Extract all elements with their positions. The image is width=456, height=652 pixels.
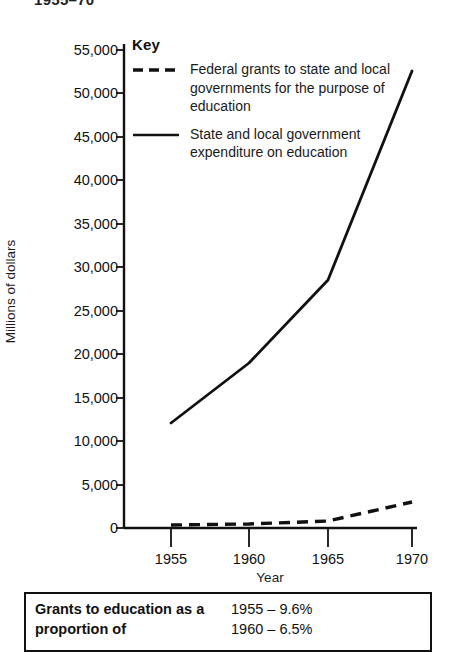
y-tick-label: 15,000 bbox=[32, 391, 118, 406]
y-tick-label: 45,000 bbox=[32, 130, 118, 145]
x-tick-label: 1970 bbox=[377, 551, 447, 567]
y-tick-label: 40,000 bbox=[32, 173, 118, 188]
x-axis-ticks bbox=[171, 528, 412, 547]
y-tick-label: 50,000 bbox=[32, 86, 118, 101]
footer-table-row: 1960 – 6.5% bbox=[231, 620, 312, 640]
legend-entry-state-local-expenditure: State and local government expenditure o… bbox=[132, 125, 432, 162]
y-axis-title: Millions of dollars bbox=[0, 196, 22, 386]
chart-plot-area: Millions of dollars 55,000 50,000 45,000… bbox=[0, 0, 456, 585]
y-tick-label: 30,000 bbox=[32, 260, 118, 275]
x-tick-label: 1960 bbox=[214, 551, 284, 567]
x-tick-label: 1965 bbox=[293, 551, 363, 567]
dashed-line-swatch-icon bbox=[132, 60, 180, 80]
series-line-federal-grants bbox=[171, 502, 412, 525]
grants-proportion-table: Grants to education as a proportion of 1… bbox=[24, 592, 432, 652]
footer-table-values: 1955 – 9.6% 1960 – 6.5% bbox=[231, 600, 312, 639]
legend-title: Key bbox=[132, 36, 432, 53]
legend-entry-label: Federal grants to state and local govern… bbox=[190, 60, 415, 116]
y-axis-title-text: Millions of dollars bbox=[4, 239, 19, 343]
y-tick-label: 25,000 bbox=[32, 304, 118, 319]
solid-line-swatch-icon bbox=[132, 125, 180, 145]
x-axis-title: Year bbox=[124, 570, 416, 585]
y-tick-label: 35,000 bbox=[32, 217, 118, 232]
y-axis-tick-labels: 55,000 50,000 45,000 40,000 35,000 30,00… bbox=[26, 0, 118, 585]
y-tick-label: 10,000 bbox=[32, 434, 118, 449]
legend-entry-label: State and local government expenditure o… bbox=[190, 125, 415, 162]
y-tick-label: 0 bbox=[32, 521, 118, 536]
footer-table-label: Grants to education as a proportion of bbox=[35, 600, 231, 639]
footer-table-row: 1955 – 9.6% bbox=[231, 600, 312, 620]
y-tick-label: 5,000 bbox=[32, 478, 118, 493]
legend-entry-federal-grants: Federal grants to state and local govern… bbox=[132, 60, 432, 116]
chart-legend: Key Federal grants to state and local go… bbox=[132, 36, 432, 171]
x-tick-label: 1955 bbox=[136, 551, 206, 567]
y-tick-label: 20,000 bbox=[32, 347, 118, 362]
y-tick-label: 55,000 bbox=[32, 43, 118, 58]
